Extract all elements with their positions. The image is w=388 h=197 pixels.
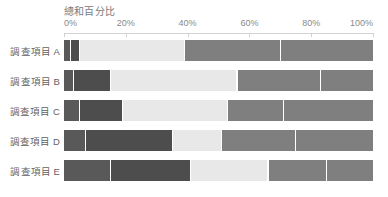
- bar-segment[interactable]: [191, 160, 268, 181]
- bar-segment[interactable]: [73, 70, 110, 91]
- bar-segment[interactable]: [228, 100, 284, 121]
- bar-segment[interactable]: [320, 70, 373, 91]
- x-axis-line: [64, 33, 373, 34]
- category-label: 調查項目 E: [6, 164, 60, 178]
- bar-segment[interactable]: [280, 40, 373, 61]
- segment-divider: [73, 70, 74, 91]
- segment-divider: [110, 70, 111, 91]
- bar-segment[interactable]: [123, 100, 228, 121]
- x-axis-tick-mark: [311, 33, 312, 37]
- segment-divider: [122, 100, 123, 121]
- chart-row: 調查項目 A: [0, 40, 388, 61]
- x-axis-tick-mark: [249, 33, 250, 37]
- segment-divider: [85, 130, 86, 151]
- stacked-bar-chart: 總和百分比 0%20%40%60%80%100% 調查項目 A調查項目 B調查項…: [0, 0, 388, 197]
- bar-segment[interactable]: [296, 130, 373, 151]
- segment-divider: [267, 160, 268, 181]
- bar-segment[interactable]: [237, 70, 320, 91]
- bar-segment[interactable]: [110, 70, 237, 91]
- bar-segment[interactable]: [79, 100, 122, 121]
- x-axis-tick-label: 60%: [240, 18, 258, 28]
- segment-divider: [79, 40, 80, 61]
- bar-segment[interactable]: [110, 160, 190, 181]
- stacked-bar[interactable]: [64, 70, 373, 91]
- bar-segment[interactable]: [172, 130, 221, 151]
- bar-segment[interactable]: [268, 160, 327, 181]
- segment-divider: [70, 40, 71, 61]
- x-axis-tick-mark: [373, 33, 374, 37]
- segment-divider: [295, 130, 296, 151]
- x-axis-tick-label: 80%: [302, 18, 320, 28]
- axis-title: 總和百分比: [64, 3, 115, 18]
- segment-divider: [79, 100, 80, 121]
- x-axis-tick-label: 100%: [350, 18, 373, 28]
- bar-segment[interactable]: [86, 130, 173, 151]
- category-label: 調查項目 B: [6, 74, 60, 88]
- chart-row: 調查項目 C: [0, 100, 388, 121]
- stacked-bar[interactable]: [64, 160, 373, 181]
- x-axis-tick-label: 40%: [179, 18, 197, 28]
- segment-divider: [221, 130, 222, 151]
- stacked-bar[interactable]: [64, 40, 373, 61]
- x-axis-tick-mark: [64, 33, 65, 37]
- segment-divider: [236, 70, 237, 91]
- plot-area: 調查項目 A調查項目 B調查項目 C調查項目 D調查項目 E: [0, 38, 388, 193]
- segment-divider: [184, 40, 185, 61]
- segment-divider: [190, 160, 191, 181]
- segment-divider: [320, 70, 321, 91]
- bar-segment[interactable]: [64, 130, 86, 151]
- bar-segment[interactable]: [64, 100, 79, 121]
- bar-segment[interactable]: [185, 40, 281, 61]
- stacked-bar[interactable]: [64, 130, 373, 151]
- bar-segment[interactable]: [283, 100, 373, 121]
- x-axis-tick-labels: 0%20%40%60%80%100%: [64, 18, 372, 31]
- x-axis-tick-label: 20%: [117, 18, 135, 28]
- bar-segment[interactable]: [327, 160, 373, 181]
- x-axis-tick-label: 0%: [64, 18, 77, 28]
- category-label: 調查項目 D: [6, 134, 60, 148]
- stacked-bar[interactable]: [64, 100, 373, 121]
- segment-divider: [110, 160, 111, 181]
- bar-segment[interactable]: [64, 160, 110, 181]
- category-label: 調查項目 A: [6, 44, 60, 58]
- category-label: 調查項目 C: [6, 104, 60, 118]
- segment-divider: [283, 100, 284, 121]
- x-axis-tick-mark: [126, 33, 127, 37]
- chart-row: 調查項目 E: [0, 160, 388, 181]
- bar-segment[interactable]: [79, 40, 184, 61]
- chart-row: 調查項目 D: [0, 130, 388, 151]
- bar-segment[interactable]: [222, 130, 296, 151]
- segment-divider: [326, 160, 327, 181]
- x-axis-tick-mark: [188, 33, 189, 37]
- segment-divider: [172, 130, 173, 151]
- segment-divider: [280, 40, 281, 61]
- chart-row: 調查項目 B: [0, 70, 388, 91]
- segment-divider: [227, 100, 228, 121]
